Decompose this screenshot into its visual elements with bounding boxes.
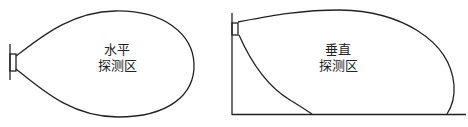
detection-zone-diagram: 水平 探测区 垂直 探测区 [0, 0, 468, 127]
diagram-graphics [0, 0, 468, 127]
vertical-zone-label: 垂直 探测区 [318, 42, 358, 74]
sensor-icon-horizontal [10, 54, 16, 71]
horizontal-zone-label-line2: 探测区 [97, 58, 137, 74]
sensor-icon-vertical [232, 23, 238, 35]
horizontal-zone-label: 水平 探测区 [97, 42, 137, 74]
vertical-zone-label-line2: 探测区 [318, 58, 358, 74]
vertical-zone-label-line1: 垂直 [318, 42, 358, 58]
vertical-detection-lower-edge [239, 35, 312, 114]
horizontal-zone-label-line1: 水平 [97, 42, 137, 58]
